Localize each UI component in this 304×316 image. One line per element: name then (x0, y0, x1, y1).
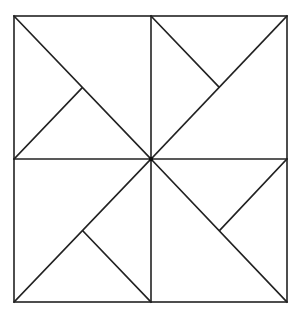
center-point (149, 157, 153, 161)
short-segment-top-left (14, 88, 82, 159)
pinwheel-diagram (0, 0, 304, 316)
short-segment-bottom-right (220, 159, 287, 230)
diagram-svg (0, 0, 304, 316)
short-segment-top-right (151, 16, 219, 87)
short-segment-bottom-left (83, 231, 151, 302)
